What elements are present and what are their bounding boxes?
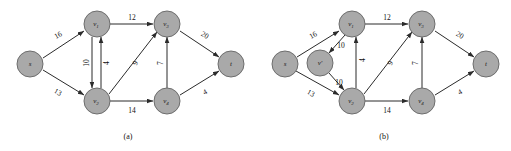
- edge-weight-s-v1-b: 16: [308, 29, 319, 41]
- edge-weight-v4-v3: 7: [156, 61, 165, 65]
- edge-v3-t: [180, 31, 219, 57]
- edge-s-v2: [43, 70, 84, 95]
- node-label-s: s: [29, 60, 32, 68]
- edge-weight-v1-v3: 12: [128, 13, 136, 22]
- panel-a: s v1 v3 t v2 v4 16 13 12 10 4 9 14 7 20 …: [17, 11, 244, 141]
- edge-s-v1: [43, 31, 84, 58]
- flow-network-figure: s v1 v3 t v2 v4 16 13 12 10 4 9 14 7 20 …: [0, 0, 511, 151]
- caption-panel-a: (a): [124, 132, 133, 141]
- figure-canvas: s v1 v3 t v2 v4 16 13 12 10 4 9 14 7 20 …: [0, 0, 511, 151]
- edge-weight-v2-v1-b: 4: [358, 58, 367, 62]
- caption-panel-b: (b): [379, 132, 389, 141]
- edge-weight-v3-t-b: 20: [455, 29, 466, 41]
- edge-weight-v4-v3-b: 7: [411, 61, 420, 65]
- edge-weight-v4-t-b: 4: [456, 87, 464, 97]
- edge-v3-t-b: [435, 31, 474, 57]
- edge-v4-t: [180, 71, 219, 95]
- edge-weight-v2-v4-b: 14: [383, 106, 391, 115]
- edge-weight-v1-v3-b: 12: [383, 13, 391, 22]
- edge-weight-s-v1: 16: [53, 29, 64, 41]
- edge-weight-v1-vprime: 10: [337, 41, 345, 50]
- edge-weight-v2-v4: 14: [128, 106, 136, 115]
- edge-weight-v2-v1: 4: [102, 61, 111, 65]
- edge-weight-v3-t: 20: [200, 29, 211, 41]
- node-label-s-b: s: [284, 60, 287, 68]
- edge-weight-v1-v2: 10: [82, 59, 91, 67]
- edge-weight-s-v2-b: 13: [306, 87, 317, 99]
- edge-weight-v4-t: 4: [201, 87, 209, 97]
- edge-weight-vprime-v2: 10: [335, 78, 343, 87]
- edge-v4-t-b: [435, 71, 474, 95]
- node-label-vprime: v': [318, 59, 323, 67]
- panel-a-edge-weights: 16 13 12 10 4 9 14 7 20 4: [53, 13, 211, 115]
- edge-weight-s-v2: 13: [53, 86, 64, 98]
- panel-b: s v' v1 v3 t v2 v4 16 13 10 10 12 4 9 14…: [272, 11, 499, 141]
